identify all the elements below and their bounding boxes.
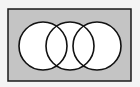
circle-fills [19,22,121,70]
venn-diagram [0,0,140,87]
